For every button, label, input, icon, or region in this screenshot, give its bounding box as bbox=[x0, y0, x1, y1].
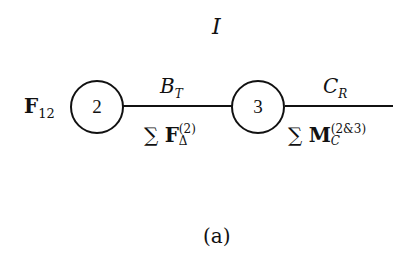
node-2-label: 2 bbox=[92, 96, 102, 118]
edge-3-output bbox=[285, 105, 393, 107]
edge-2-3 bbox=[123, 105, 232, 107]
diagram-caption: (a) bbox=[203, 226, 231, 246]
moment-subscript: C bbox=[331, 135, 366, 147]
sum-symbol: ∑ bbox=[288, 123, 302, 147]
input-label-symbol: F bbox=[24, 94, 38, 118]
edge-3-output-top-label: CR bbox=[323, 76, 347, 96]
bt-symbol: B bbox=[160, 74, 175, 98]
input-label-f12: F12 bbox=[24, 96, 55, 116]
cr-subscript: R bbox=[338, 87, 347, 101]
force-symbol: F bbox=[165, 123, 179, 147]
cr-symbol: C bbox=[323, 74, 338, 98]
moment-symbol: M bbox=[309, 123, 331, 147]
input-label-subscript: 12 bbox=[38, 106, 55, 121]
node-3: 3 bbox=[231, 80, 285, 134]
force-subscript: Δ bbox=[179, 135, 196, 147]
bt-subscript: T bbox=[175, 87, 183, 101]
node-2: 2 bbox=[70, 80, 124, 134]
edge-2-3-bottom-label: ∑ F (2) Δ bbox=[144, 124, 196, 148]
sum-symbol: ∑ bbox=[144, 123, 158, 147]
edge-2-3-top-label: BT bbox=[160, 76, 183, 96]
diagram-title: I bbox=[212, 16, 221, 38]
edge-3-output-bottom-label: ∑ M (2&3) C bbox=[288, 124, 366, 148]
node-3-label: 3 bbox=[253, 96, 263, 118]
